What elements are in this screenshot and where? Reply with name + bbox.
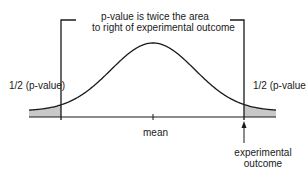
normal-distribution-curve bbox=[29, 43, 276, 110]
left-bracket bbox=[61, 20, 76, 120]
outcome-label-line-2: outcome bbox=[233, 158, 293, 169]
mean-label: mean bbox=[143, 127, 168, 138]
title-line-1: p-value is twice the area bbox=[92, 11, 218, 22]
right-bracket bbox=[230, 20, 244, 120]
outcome-arrow-head bbox=[242, 121, 247, 128]
outcome-label-line-1: experimental bbox=[233, 147, 293, 158]
experimental-outcome-label: experimental outcome bbox=[233, 147, 293, 169]
title-line-2: to right of experimental outcome bbox=[92, 22, 218, 33]
p-value-diagram: p-value is twice the area to right of ex… bbox=[0, 0, 306, 178]
left-tail-label: 1/2 (p-value) bbox=[9, 80, 65, 91]
diagram-title: p-value is twice the area to right of ex… bbox=[92, 11, 218, 33]
right-tail-label: 1/2 (p-value) bbox=[253, 80, 306, 91]
